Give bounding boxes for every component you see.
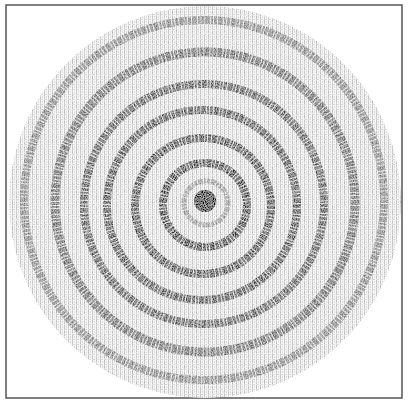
ring-pattern-figure (0, 0, 408, 402)
disc-area (9, 6, 401, 398)
center-spot (194, 190, 216, 212)
